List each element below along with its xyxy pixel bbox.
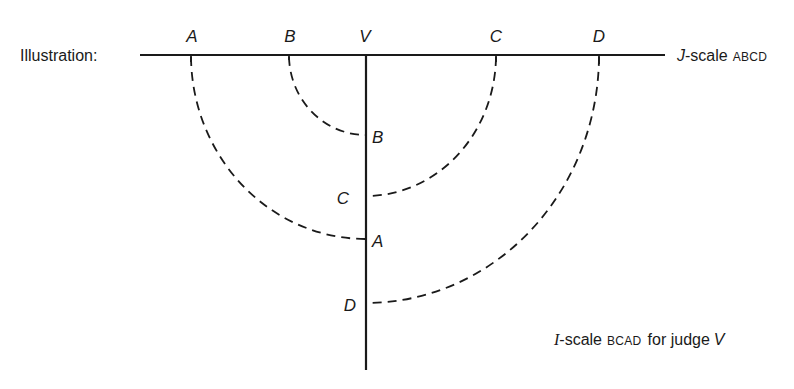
i-label-c: C [337, 189, 350, 208]
i-scale-word: -scale [559, 331, 602, 348]
unfolding-diagram: Illustration: A B V C D J-scaleABCD B C … [0, 0, 794, 389]
illustration-heading: Illustration: [20, 47, 97, 64]
fold-arc-b [289, 57, 366, 135]
fold-arc-c [366, 57, 496, 196]
j-label-a: A [185, 27, 197, 46]
j-scale-order: ABCD [733, 50, 768, 64]
fold-arc-d [366, 57, 599, 303]
j-scale-word: -scale [685, 47, 728, 64]
i-scale-caption: I-scaleBCADfor judgeV [553, 331, 726, 348]
j-label-d: D [593, 27, 605, 46]
i-label-d: D [344, 296, 356, 315]
j-scale-caption: J-scaleABCD [676, 47, 767, 64]
i-label-a: A [371, 232, 383, 251]
i-scale-order: BCAD [607, 334, 642, 348]
j-label-c: C [490, 27, 503, 46]
j-label-b: B [284, 27, 295, 46]
j-label-v: V [359, 27, 372, 46]
fold-arc-a [191, 57, 366, 239]
i-scale-judge: V [714, 331, 726, 348]
i-label-b: B [372, 128, 383, 147]
i-scale-for-text: for judge [648, 331, 710, 348]
